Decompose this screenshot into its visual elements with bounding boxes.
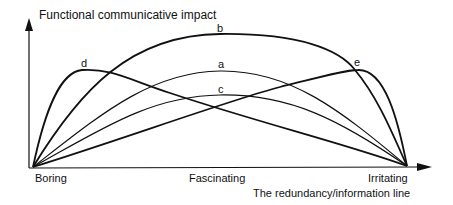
y-axis-arrow-icon — [25, 18, 33, 31]
x-axis-arrow-icon — [417, 163, 432, 171]
x-tick-fascinating: Fascinating — [189, 172, 245, 184]
curve-label-e: e — [354, 56, 360, 68]
x-tick-boring: Boring — [35, 172, 67, 184]
curve-label-c: c — [218, 83, 224, 95]
curve-label-d: d — [81, 57, 87, 69]
x-tick-irritating: Irritating — [368, 172, 408, 184]
y-axis-title: Functional communicative impact — [39, 8, 216, 22]
curve-label-a: a — [218, 58, 224, 70]
x-axis-title: The redundancy/information line — [253, 187, 410, 199]
x-axis — [29, 167, 420, 168]
curve-label-b: b — [217, 22, 223, 34]
